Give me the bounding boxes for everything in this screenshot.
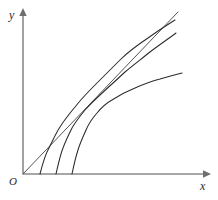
tangent-line: [23, 12, 178, 174]
curve-family-group: [40, 20, 182, 174]
y-axis-arrowhead: [19, 8, 26, 16]
x-axis-label: x: [200, 180, 205, 192]
curve-1: [40, 20, 175, 174]
axes-group: [19, 8, 211, 178]
x-axis-arrowhead: [203, 170, 211, 177]
origin-label: O: [9, 176, 17, 187]
tangent-line-group: [23, 12, 178, 174]
y-axis-label: y: [9, 9, 14, 21]
curve-3: [72, 73, 182, 174]
curve-2: [56, 33, 176, 174]
math-figure: y x O: [0, 0, 218, 200]
figure-canvas: [0, 0, 218, 200]
